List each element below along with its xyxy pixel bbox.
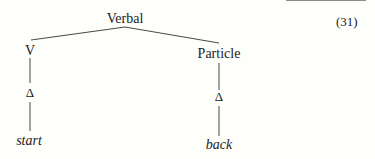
node-particle: Particle bbox=[198, 46, 241, 62]
node-v: V bbox=[25, 43, 35, 59]
leaf-back: back bbox=[206, 137, 232, 153]
edge-verbal-particle bbox=[125, 27, 219, 43]
edge-verbal-v bbox=[31, 27, 125, 40]
node-verbal: Verbal bbox=[107, 11, 144, 27]
leaf-start: start bbox=[16, 133, 42, 149]
node-delta-v: Δ bbox=[26, 85, 34, 101]
tree-edges bbox=[0, 0, 375, 159]
example-number: (31) bbox=[336, 14, 358, 30]
node-delta-particle: Δ bbox=[215, 89, 223, 105]
